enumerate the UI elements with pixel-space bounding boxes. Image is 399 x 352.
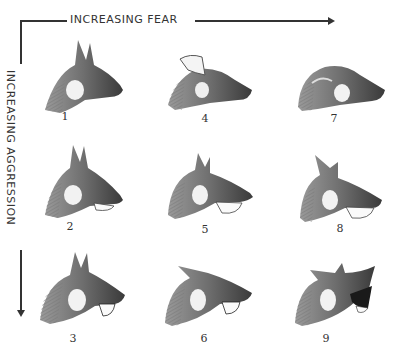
figure-number: 3 (63, 332, 83, 345)
dog-head-snarling-icon (35, 250, 145, 335)
dog-head-1: 1 (40, 35, 150, 135)
dog-head-3: 3 (35, 250, 145, 350)
figure-number: 1 (55, 110, 75, 123)
dog-head-mouth-slightly-open-icon (40, 140, 150, 230)
dog-head-ears-flat-icon (290, 45, 399, 125)
dog-head-5: 5 (160, 145, 270, 245)
aggression-axis-line-bottom (20, 250, 22, 312)
fear-arrow-head-icon (328, 17, 335, 25)
fear-axis-line-right (195, 20, 330, 22)
dog-head-ears-back-icon (160, 45, 270, 125)
dog-head-mouth-open-icon (160, 145, 270, 230)
aggression-arrow-head-icon (17, 310, 25, 317)
dog-head-8: 8 (290, 150, 399, 250)
dog-head-6: 6 (160, 258, 270, 352)
fear-axis-label: INCREASING FEAR (70, 13, 178, 26)
figure-number: 6 (194, 332, 214, 345)
figure-number: 7 (324, 112, 344, 125)
dog-head-ears-back-mouth-open-icon (290, 150, 399, 230)
dog-head-4: 4 (160, 45, 270, 145)
figure-number: 8 (330, 222, 350, 235)
aggression-axis-label: INCREASING AGGRESSION (4, 70, 17, 225)
aggression-axis-line-top (20, 20, 22, 64)
dog-head-2: 2 (40, 140, 150, 240)
dog-head-7: 7 (290, 45, 399, 145)
figure-number: 9 (316, 332, 336, 345)
dog-head-9: 9 (290, 258, 399, 352)
figure-number: 5 (195, 223, 215, 236)
dog-head-ears-flat-wide-snarl-icon (290, 258, 399, 333)
figure-number: 2 (60, 220, 80, 233)
figure-number: 4 (195, 112, 215, 125)
fear-axis-line-left (21, 20, 67, 22)
dog-head-ears-back-snarling-icon (160, 258, 270, 333)
